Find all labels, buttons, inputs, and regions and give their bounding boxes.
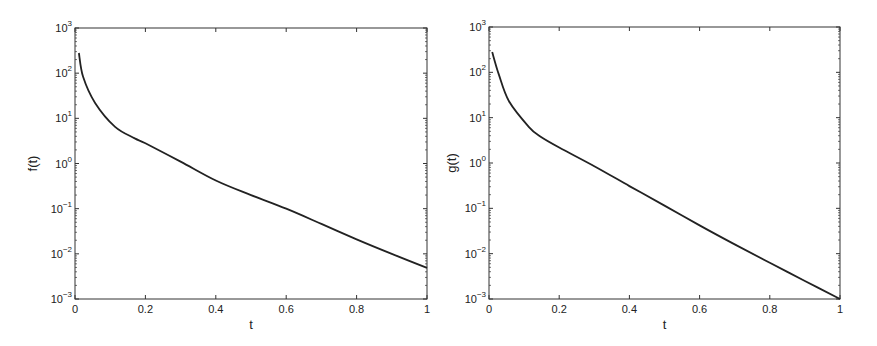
x-tick-label: 0.4: [622, 303, 637, 315]
plot-frame: [489, 27, 840, 299]
y-tick-label: 10−2: [465, 245, 487, 260]
x-tick-label: 0.2: [552, 303, 567, 315]
y-tick-label: 10−2: [51, 245, 73, 260]
y-tick-label: 10−1: [51, 200, 73, 215]
chart-f-of-t: 00.20.40.60.8110310210110010−110−210−3tf…: [25, 19, 430, 332]
y-tick-label: 101: [55, 109, 72, 124]
x-axis-label: t: [663, 317, 667, 332]
x-tick-label: 0.8: [762, 303, 777, 315]
x-tick-label: 1: [837, 303, 843, 315]
y-tick-label: 103: [469, 18, 486, 33]
plot-frame: [75, 28, 427, 299]
figure-canvas: 00.20.40.60.8110310210110010−110−210−3tf…: [0, 0, 877, 346]
data-line: [79, 53, 427, 268]
x-tick-label: 0: [486, 303, 492, 315]
chart-g-of-t: 00.20.40.60.8110310210110010−110−210−3tg…: [444, 18, 843, 332]
x-tick-label: 0.4: [208, 303, 223, 315]
y-tick-label: 102: [469, 63, 486, 78]
x-tick-label: 0.6: [279, 303, 294, 315]
x-tick-label: 0.6: [692, 303, 707, 315]
x-tick-label: 0.2: [138, 303, 153, 315]
x-tick-label: 1: [424, 303, 430, 315]
figure: 00.20.40.60.8110310210110010−110−210−3tf…: [0, 0, 877, 346]
y-tick-label: 100: [55, 155, 72, 170]
x-tick-label: 0.8: [349, 303, 364, 315]
y-axis-label: f(t): [25, 156, 40, 172]
y-tick-label: 103: [55, 19, 72, 34]
y-tick-label: 102: [55, 64, 72, 79]
y-tick-label: 101: [469, 109, 486, 124]
data-line: [492, 52, 840, 299]
y-tick-label: 100: [469, 154, 486, 169]
y-tick-label: 10−3: [51, 290, 73, 305]
y-tick-label: 10−3: [465, 290, 487, 305]
y-axis-label: g(t): [444, 153, 459, 173]
x-tick-label: 0: [72, 303, 78, 315]
y-tick-label: 10−1: [465, 199, 487, 214]
x-axis-label: t: [249, 317, 253, 332]
